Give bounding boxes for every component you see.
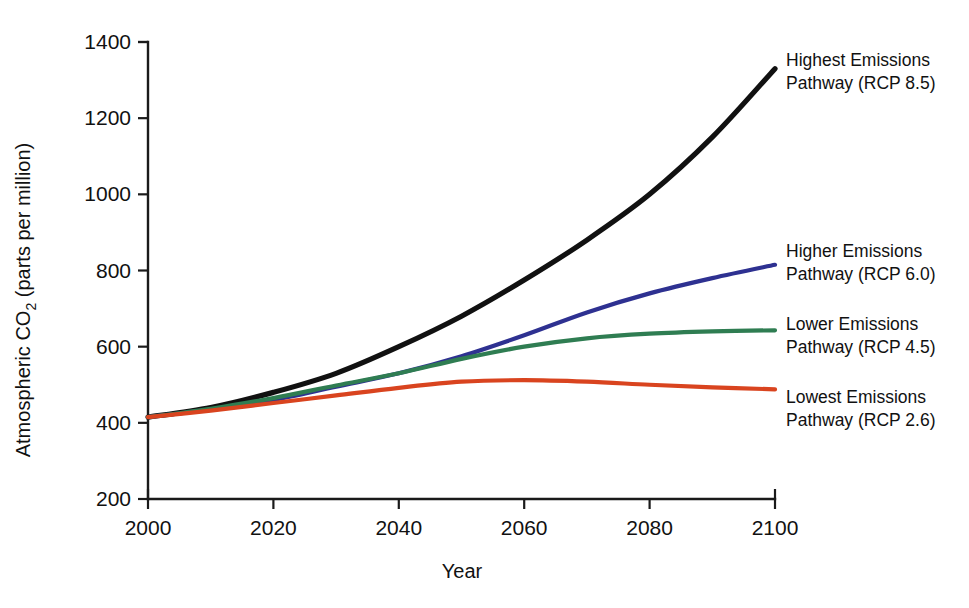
y-tick-label: 600 [96,335,131,358]
y-tick-label: 200 [96,487,131,510]
y-tick-label: 400 [96,411,131,434]
y-tick-label: 1000 [84,182,131,205]
y-tick-label: 800 [96,259,131,282]
annotation-line-2: Pathway (RCP 4.5) [786,337,935,357]
annotation-line-1: Lower Emissions [786,314,919,334]
x-tick-label: 2060 [501,516,548,539]
x-tick-label: 2100 [752,516,799,539]
annotation-line-1: Lowest Emissions [786,387,926,407]
co2-projection-chart: 200400600800100012001400 200020202040206… [0,0,969,608]
annotation-line-2: Pathway (RCP 2.6) [786,410,935,430]
annotation-line-1: Highest Emissions [786,50,930,70]
annotation-line-2: Pathway (RCP 8.5) [786,73,935,93]
annotation-line-2: Pathway (RCP 6.0) [786,264,935,284]
x-axis-title: Year [442,560,483,582]
chart-figure: 200400600800100012001400 200020202040206… [0,0,969,608]
x-tick-label: 2080 [626,516,673,539]
x-tick-label: 2020 [250,516,297,539]
y-tick-label: 1400 [84,30,131,53]
x-tick-label: 2000 [125,516,172,539]
annotation-line-1: Higher Emissions [786,241,922,261]
x-tick-label: 2040 [375,516,422,539]
y-tick-label: 1200 [84,106,131,129]
